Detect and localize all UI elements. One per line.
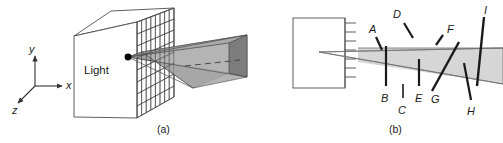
z-axis-line <box>18 86 35 103</box>
label-C: C <box>398 104 406 116</box>
label-E: E <box>415 92 423 104</box>
y-axis-label: y <box>28 43 36 55</box>
panel-a: y x z <box>11 8 247 135</box>
tick-marks <box>345 18 356 88</box>
segment-F <box>436 35 443 45</box>
x-axis-label: x <box>65 79 72 91</box>
label-G: G <box>431 93 440 105</box>
label-A: A <box>368 23 376 35</box>
caption-b: (b) <box>389 123 402 135</box>
panel-b: A B C D E F G H I (b) <box>293 4 503 135</box>
label-B: B <box>381 92 388 104</box>
panel-b-square <box>293 18 345 88</box>
light-source-label: Light <box>84 64 110 76</box>
point-light-dot <box>125 54 132 61</box>
label-D: D <box>393 8 401 20</box>
axis-triad: y x z <box>11 43 72 116</box>
caption-a: (a) <box>157 123 170 135</box>
figure-root: y x z <box>0 0 503 143</box>
z-axis-label: z <box>11 104 18 116</box>
label-F: F <box>447 23 455 35</box>
segment-D <box>404 23 413 38</box>
label-H: H <box>467 105 475 117</box>
label-I: I <box>484 4 487 16</box>
figure-svg: y x z <box>0 0 503 143</box>
